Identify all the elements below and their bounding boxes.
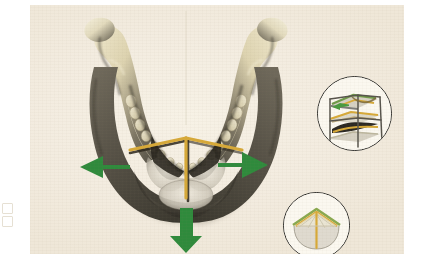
arrow-down — [170, 208, 202, 253]
inset-upper-diagram — [318, 77, 391, 150]
inset-lower-diagram — [284, 193, 349, 254]
margin-mark-2 — [2, 216, 13, 227]
photo-plate — [30, 5, 404, 254]
inset-upper[interactable] — [317, 76, 392, 151]
margin-mark-1 — [2, 203, 13, 214]
inset-lower[interactable] — [283, 192, 350, 254]
arrow-right — [218, 152, 268, 178]
figure-root: Anatomical photograph of a human mandibl… — [0, 0, 421, 267]
arrow-left — [80, 156, 130, 178]
